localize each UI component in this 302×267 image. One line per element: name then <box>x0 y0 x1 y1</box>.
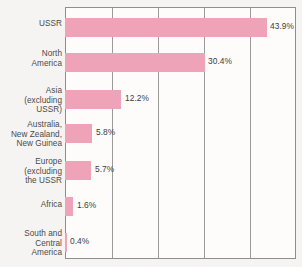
bar-australia <box>65 124 92 143</box>
category-label-south-america: South and Central America <box>0 229 62 258</box>
bar-north-america <box>65 53 205 72</box>
category-label-ussr: USSR <box>0 19 62 29</box>
value-label-africa: 1.6% <box>77 200 96 210</box>
category-label-asia: Asia (excluding USSR) <box>0 86 62 115</box>
bar-chart: USSR North America Asia (excluding USSR)… <box>0 0 302 267</box>
value-label-ussr: 43.9% <box>270 21 294 31</box>
value-label-australia: 5.8% <box>96 127 115 137</box>
category-label-europe: Europe (excluding the USSR <box>0 157 62 186</box>
bar-europe <box>65 161 91 180</box>
category-label-north-america: North America <box>0 49 62 68</box>
bar-south-america <box>65 233 67 252</box>
category-label-africa: Africa <box>0 200 62 210</box>
bar-ussr <box>65 18 267 37</box>
value-label-europe: 5.7% <box>95 164 114 174</box>
category-label-australia: Australia, New Zealand, New Guinea <box>0 120 62 149</box>
bar-africa <box>65 197 73 216</box>
bar-asia <box>65 90 121 109</box>
value-label-asia: 12.2% <box>125 93 149 103</box>
category-label-axis: USSR North America Asia (excluding USSR)… <box>0 0 62 267</box>
value-label-south-america: 0.4% <box>70 236 89 246</box>
value-label-north-america: 30.4% <box>208 56 232 66</box>
